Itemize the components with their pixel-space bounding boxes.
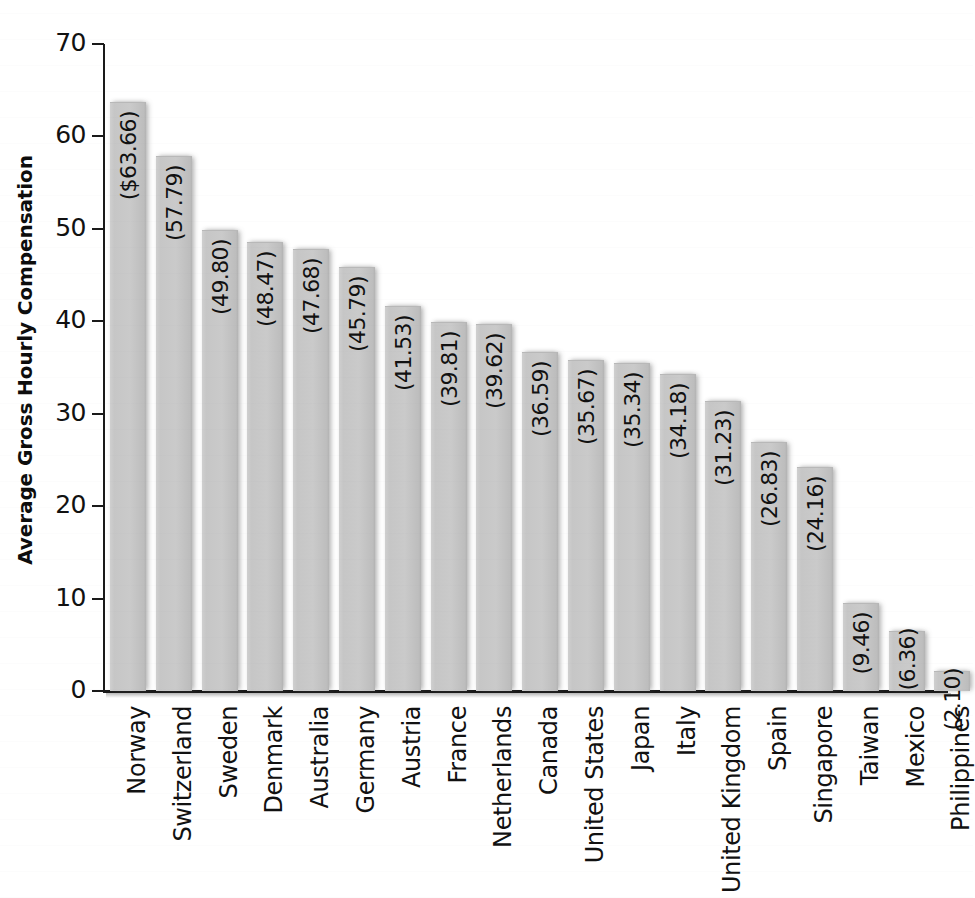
x-axis-category-text: Austria (398, 706, 426, 788)
bar[interactable]: (6.36) (889, 631, 925, 691)
x-axis-category-text: Canada (535, 706, 563, 795)
x-axis-category-text: Denmark (260, 706, 288, 814)
bar-value-label: (49.80) (207, 239, 232, 315)
bar-value-label: (36.59) (528, 361, 553, 437)
bar-value-label: (34.18) (665, 383, 690, 459)
x-axis-category-text: Germany (352, 706, 380, 814)
bar[interactable]: (26.83) (751, 442, 787, 691)
x-axis-category-text: Mexico (902, 706, 930, 787)
bar[interactable]: (57.79) (156, 156, 192, 691)
bar-value-label: (39.62) (482, 333, 507, 409)
bar-value-label: (48.47) (253, 251, 278, 327)
x-axis-category-text: Japan (627, 706, 655, 771)
bar-value-label: (35.67) (574, 369, 599, 445)
bar[interactable]: (49.80) (202, 230, 238, 691)
bar-value-label: (45.79) (345, 276, 370, 352)
bar[interactable]: (24.16) (797, 467, 833, 691)
bar-value-label: (26.83) (757, 451, 782, 527)
x-axis-category-text: Spain (764, 706, 792, 771)
bar[interactable]: (47.68) (293, 249, 329, 691)
bar[interactable]: (45.79) (339, 267, 375, 691)
x-axis-category-text: Sweden (215, 706, 243, 798)
bar-value-label: (6.36) (894, 628, 919, 691)
bar[interactable]: (36.59) (522, 352, 558, 691)
bar-value-label: (41.53) (390, 315, 415, 391)
bar[interactable]: (9.46) (843, 603, 879, 691)
bar-value-label: ($63.66) (116, 111, 141, 200)
bar-value-label: (47.68) (299, 258, 324, 334)
bar[interactable]: ($63.66) (110, 102, 146, 691)
bar-value-label: (57.79) (161, 165, 186, 241)
bar-value-label: (39.81) (436, 331, 461, 407)
x-axis-category-text: Australia (306, 706, 334, 809)
x-axis-category-text: Norway (123, 706, 151, 795)
bar-value-label: (9.46) (848, 612, 873, 675)
bar[interactable]: (39.62) (476, 324, 512, 691)
x-axis-category-text: Singapore (810, 706, 838, 823)
bar[interactable]: (35.67) (568, 360, 604, 691)
bar[interactable]: (48.47) (247, 242, 283, 691)
bar[interactable]: (41.53) (385, 306, 421, 691)
x-axis-category-text: Netherlands (489, 706, 517, 848)
bar-value-label: (31.23) (711, 410, 736, 486)
bar[interactable]: (2.10) (934, 671, 970, 691)
x-axis-category-text: United States (581, 706, 609, 863)
bar[interactable]: (39.81) (431, 322, 467, 691)
bar[interactable]: (34.18) (660, 374, 696, 691)
x-axis-category-text: United Kingdom (718, 706, 746, 893)
x-axis-category-text: France (444, 706, 472, 783)
bar[interactable]: (31.23) (705, 401, 741, 691)
x-axis-category-text: Philippines (947, 706, 975, 831)
x-axis-category-text: Italy (673, 706, 701, 756)
bar[interactable]: (35.34) (614, 363, 650, 691)
bar-value-label: (35.34) (619, 372, 644, 448)
x-axis-category-text: Switzerland (169, 706, 197, 842)
x-axis-category-text: Taiwan (856, 706, 884, 785)
bar-value-label: (24.16) (803, 476, 828, 552)
